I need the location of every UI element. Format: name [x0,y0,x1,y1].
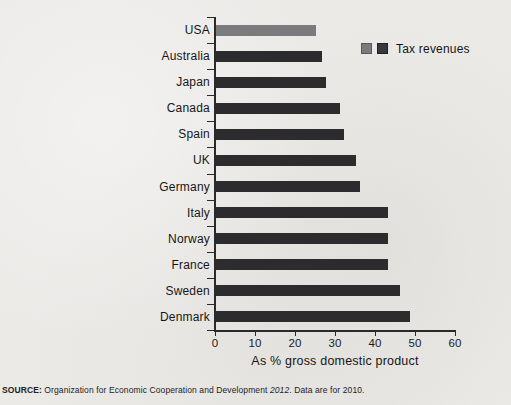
category-label: Sweden [0,278,210,304]
bar-norway [216,233,388,244]
category-label: USA [0,17,210,43]
category-label: Norway [0,226,210,252]
x-tick [215,331,216,336]
bar-row-uk: UK [0,147,511,173]
bar-row-usa: USA [0,17,511,43]
y-tick [207,304,214,305]
bar-row-italy: Italy [0,200,511,226]
category-label: Germany [0,174,210,200]
source-prefix: SOURCE: [2,385,42,395]
category-label: Canada [0,95,210,121]
bar-spain [216,129,344,140]
source-note: SOURCE: Organization for Economic Cooper… [2,385,502,395]
x-tick [415,331,416,336]
bar-canada [216,103,340,114]
x-tick-label: 30 [315,337,355,349]
bar-sweden [216,285,400,296]
bar-usa [216,25,316,36]
bar-row-spain: Spain [0,121,511,147]
x-tick-label: 60 [435,337,475,349]
x-tick-label: 20 [275,337,315,349]
bar-row-japan: Japan [0,69,511,95]
y-tick [207,226,214,227]
y-tick [207,200,214,201]
bar-australia [216,51,322,62]
bar-japan [216,77,326,88]
y-tick [207,43,214,44]
y-tick [207,147,214,148]
bar-row-sweden: Sweden [0,278,511,304]
bar-row-denmark: Denmark [0,304,511,330]
bar-denmark [216,311,410,322]
bar-italy [216,207,388,218]
y-tick [207,69,214,70]
category-label: Denmark [0,304,210,330]
y-tick [207,330,214,331]
category-label: Italy [0,200,210,226]
bar-row-norway: Norway [0,226,511,252]
bar-row-canada: Canada [0,95,511,121]
legend-default-swatch [377,43,388,54]
source-body: Organization for Economic Cooperation an… [42,385,270,395]
bar-uk [216,155,356,166]
category-label: Australia [0,43,210,69]
x-tick [335,331,336,336]
x-tick [295,331,296,336]
category-label: Japan [0,69,210,95]
legend-highlight-swatch [361,43,372,54]
book-page: USAAustraliaJapanCanadaSpainUKGermanyIta… [0,0,511,405]
x-tick [455,331,456,336]
y-tick [207,252,214,253]
x-tick-label: 0 [195,337,235,349]
bar-france [216,259,388,270]
y-tick [207,278,214,279]
source-year-italic: 2012 [270,385,289,395]
x-tick-label: 40 [355,337,395,349]
legend-label: Tax revenues [396,42,470,56]
x-axis-title: As % gross domestic product [215,354,455,368]
source-suffix: . Data are for 2010. [289,385,364,395]
x-tick [375,331,376,336]
bar-row-france: France [0,252,511,278]
bar-row-germany: Germany [0,174,511,200]
legend: Tax revenues [361,42,470,55]
y-tick [207,95,214,96]
tax-revenues-bar-chart: USAAustraliaJapanCanadaSpainUKGermanyIta… [0,0,511,380]
y-tick [207,174,214,175]
category-label: Spain [0,121,210,147]
x-tick-label: 50 [395,337,435,349]
y-tick [207,17,214,18]
x-tick [255,331,256,336]
bar-germany [216,181,360,192]
category-label: UK [0,147,210,173]
x-tick-label: 10 [235,337,275,349]
category-label: France [0,252,210,278]
y-tick [207,121,214,122]
